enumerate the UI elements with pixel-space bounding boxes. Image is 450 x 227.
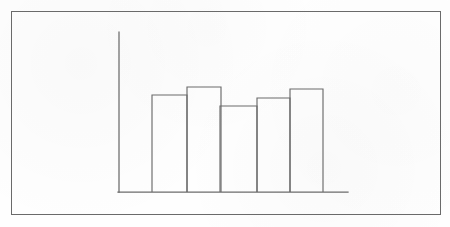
bar-chart-plot	[0, 0, 450, 227]
bar-4[interactable]	[257, 98, 290, 192]
bars-group	[152, 87, 323, 192]
bar-5[interactable]	[290, 89, 323, 192]
bar-2[interactable]	[187, 87, 221, 192]
bar-1[interactable]	[152, 95, 187, 192]
bar-3[interactable]	[220, 106, 257, 192]
chart-canvas	[0, 0, 450, 227]
